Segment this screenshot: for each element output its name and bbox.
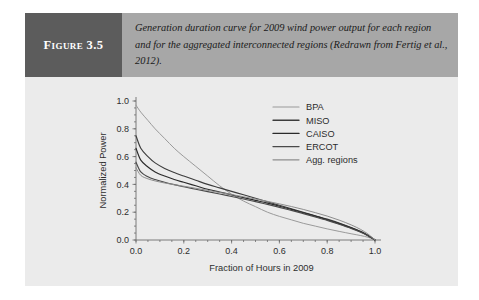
figure-header-band: Figure 3.5 Generation duration curve for… [25,13,458,77]
figure-page: Figure 3.5 Generation duration curve for… [0,0,479,300]
x-tick-label: 0.4 [225,246,238,256]
series-line-ercot [136,162,375,240]
legend-label-caiso: CAISO [306,129,335,139]
x-axis-title: Fraction of Hours in 2009 [209,263,313,273]
legend-label-ercot: ERCOT [306,142,339,152]
y-axis-title: Normalized Power [98,133,108,209]
figure-number-label: Figure 3.5 [44,38,104,53]
chart-axes [136,97,381,240]
y-tick-label: 0.0 [116,235,129,245]
duration-curve-chart: 0.00.20.40.60.81.00.00.20.40.60.81.0Frac… [25,77,458,286]
x-tick-label: 0.6 [273,246,286,256]
y-tick-label: 0.2 [116,207,129,217]
x-tick-label: 1.0 [369,246,382,256]
figure-number-block: Figure 3.5 [25,13,122,77]
chart-panel: 0.00.20.40.60.81.00.00.20.40.60.81.0Frac… [25,77,458,286]
figure-caption: Generation duration curve for 2009 wind … [122,13,458,77]
legend-label-agg-regions: Agg. regions [306,155,358,165]
y-tick-label: 0.8 [116,124,129,134]
figure-caption-text: Generation duration curve for 2009 wind … [135,20,448,70]
y-tick-label: 1.0 [116,96,129,106]
legend-label-miso: MISO [306,116,329,126]
x-tick-label: 0.0 [130,246,143,256]
y-tick-label: 0.6 [116,152,129,162]
legend-label-bpa: BPA [306,102,325,112]
x-tick-label: 0.2 [178,246,191,256]
x-tick-label: 0.8 [321,246,334,256]
y-tick-label: 0.4 [116,180,129,190]
